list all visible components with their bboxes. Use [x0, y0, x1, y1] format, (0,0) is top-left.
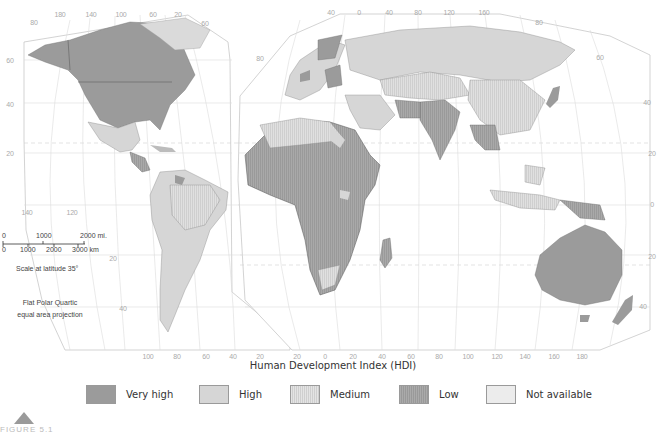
scale-km-label: 0 [2, 246, 6, 253]
swatch-very-high [86, 385, 116, 404]
lon-label: 20 [174, 11, 181, 18]
lat-label: 60 [201, 20, 208, 27]
lat-label: 40 [639, 303, 646, 310]
swatch-low [399, 385, 429, 404]
lon-label: 180 [576, 353, 587, 360]
legend-title: Human Development Index (HDI) [0, 360, 666, 371]
lat-label: 60 [596, 54, 603, 61]
projection-name: Flat Polar Quartic [10, 297, 90, 309]
projection-type: equal area projection [10, 309, 90, 321]
lat-label: 0 [650, 201, 654, 208]
figure-triangle-icon [14, 412, 34, 424]
lon-label: 180 [54, 11, 65, 18]
projection-note: Flat Polar Quartic equal area projection [10, 297, 90, 321]
scale-mi-label: 0 [2, 232, 6, 239]
legend-item-low: Low [399, 384, 459, 404]
legend-item-medium: Medium [290, 384, 370, 404]
lon-label: 140 [85, 11, 96, 18]
legend-item-high: High [199, 384, 262, 404]
lat-label: 40 [6, 101, 13, 108]
lon-label: 80 [173, 353, 180, 360]
lat-label: 20 [109, 255, 116, 262]
figure-label: FIGURE 5.1 [0, 425, 54, 434]
swatch-not-available [486, 385, 516, 404]
scale-km-label: 1000 [20, 246, 36, 253]
lon-label: 0 [357, 9, 361, 16]
legend-label: Low [439, 389, 459, 400]
lon-label: 40 [229, 353, 236, 360]
legend-label: Medium [330, 389, 370, 400]
lon-label: 140 [21, 209, 32, 216]
lat-label: 20 [6, 150, 13, 157]
scale-caption: Scale at latitude 35° [16, 265, 78, 272]
lon-label: 100 [115, 11, 126, 18]
scale-km-label: 3000 km [72, 246, 99, 253]
lat-label: 20 [648, 253, 655, 260]
lat-label: 60 [6, 57, 13, 64]
scale-bar: 0 1000 2000 mi. 0 1000 2000 3000 km [2, 232, 102, 255]
lon-label: 0 [323, 353, 327, 360]
lon-label: 20 [256, 353, 263, 360]
legend-label: High [239, 389, 262, 400]
legend-item-very-high: Very high [86, 384, 173, 404]
lat-label: 40 [119, 305, 126, 312]
scale-mi-label: 2000 mi. [80, 232, 107, 239]
lon-label: 160 [548, 353, 559, 360]
swatch-medium [290, 385, 320, 404]
lon-label: 120 [491, 353, 502, 360]
lat-label: 20 [648, 150, 655, 157]
legend-label: Not available [526, 389, 592, 400]
lon-label: 160 [478, 9, 489, 16]
lon-label: 20 [349, 353, 356, 360]
lat-label: 80 [30, 19, 37, 26]
lat-label: 80 [256, 55, 263, 62]
lon-label: 80 [414, 9, 421, 16]
swatch-high [199, 385, 229, 404]
lat-label: 40 [643, 99, 650, 106]
lon-label: 120 [443, 9, 454, 16]
lon-label: 60 [202, 353, 209, 360]
lon-label: 60 [407, 353, 414, 360]
lon-label: 80 [435, 353, 442, 360]
scale-mi-label: 1000 [36, 232, 52, 239]
lon-label: 40 [327, 9, 334, 16]
lon-label: 40 [378, 353, 385, 360]
lon-label: 100 [142, 353, 153, 360]
lon-label: 140 [519, 353, 530, 360]
lon-label: 100 [462, 353, 473, 360]
lon-label: 120 [66, 209, 77, 216]
legend-item-not-available: Not available [486, 384, 592, 404]
scale-km-label: 2000 [46, 246, 62, 253]
legend-label: Very high [126, 389, 173, 400]
lon-label: 60 [149, 11, 156, 18]
lat-label: 80 [535, 19, 542, 26]
lon-label: 40 [385, 9, 392, 16]
lon-label: 20 [293, 353, 300, 360]
